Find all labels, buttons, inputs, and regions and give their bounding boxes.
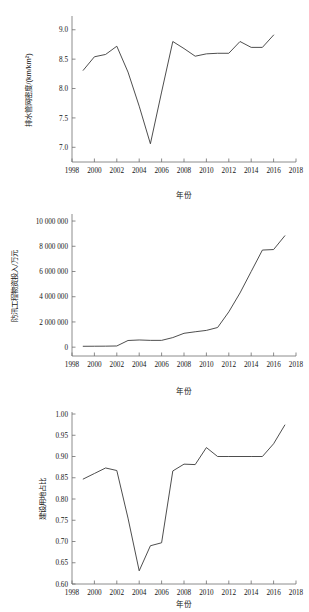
- x-tick-label: 2018: [289, 361, 304, 369]
- chart-2-plot-area: 02 000 0004 000 0006 000 0008 000 00010 …: [10, 214, 304, 396]
- data-series-line: [83, 425, 285, 571]
- x-tick-label: 2008: [177, 361, 192, 369]
- y-tick-label: 8.5: [59, 56, 68, 64]
- x-tick-label: 2000: [87, 589, 102, 597]
- x-tick-label: 2012: [222, 361, 237, 369]
- x-tick-label: 2004: [132, 589, 147, 597]
- y-tick-label: 9.0: [59, 26, 68, 34]
- x-tick-label: 1998: [65, 589, 80, 597]
- x-tick-label: 2012: [222, 589, 237, 597]
- x-tick-label: 2000: [87, 167, 102, 175]
- y-tick-label: 1.00: [55, 411, 68, 419]
- x-tick-label: 2000: [87, 361, 102, 369]
- data-series-line: [83, 35, 273, 144]
- y-tick-label: 7.0: [59, 144, 68, 152]
- y-tick-label: 0.60: [55, 581, 68, 589]
- x-axis-title: 年份: [176, 599, 192, 609]
- x-tick-label: 2016: [266, 361, 281, 369]
- chart-construction-land-ratio: 0.600.650.700.750.800.850.900.951.001998…: [0, 400, 309, 612]
- data-series-line: [83, 236, 285, 346]
- y-tick-label: 4 000 000: [39, 293, 68, 301]
- x-tick-label: 2014: [244, 361, 259, 369]
- y-tick-label: 0.65: [55, 559, 68, 567]
- x-tick-label: 2004: [132, 167, 147, 175]
- x-tick-label: 1998: [65, 167, 80, 175]
- x-tick-label: 2018: [289, 167, 304, 175]
- chart-1-canvas: 7.07.58.08.59.01998200020022004200620082…: [0, 0, 309, 204]
- y-tick-label: 0.85: [55, 474, 68, 482]
- x-tick-label: 2014: [244, 589, 259, 597]
- x-tick-label: 2006: [154, 361, 169, 369]
- y-axis-title: 排水管网密度/(km/km²): [24, 53, 33, 126]
- x-axis-title: 年份: [176, 386, 192, 396]
- y-tick-label: 0: [64, 344, 68, 352]
- figure-page: 7.07.58.08.59.01998200020022004200620082…: [0, 0, 309, 612]
- x-tick-label: 2014: [244, 167, 259, 175]
- chart-2-canvas: 02 000 0004 000 0006 000 0008 000 00010 …: [0, 204, 309, 400]
- x-tick-label: 2008: [177, 167, 192, 175]
- chart-1-plot-area: 7.07.58.08.59.01998200020022004200620082…: [24, 16, 304, 200]
- x-tick-label: 2016: [266, 167, 281, 175]
- chart-flood-control-investment: 02 000 0004 000 0006 000 0008 000 00010 …: [0, 204, 309, 400]
- x-tick-label: 2002: [110, 589, 125, 597]
- y-tick-label: 0.90: [55, 453, 68, 461]
- y-tick-label: 8 000 000: [39, 243, 68, 251]
- y-tick-label: 8.0: [59, 85, 68, 93]
- x-tick-label: 2010: [199, 361, 214, 369]
- chart-drainage-pipe-density: 7.07.58.08.59.01998200020022004200620082…: [0, 0, 309, 204]
- x-tick-label: 2006: [154, 167, 169, 175]
- y-tick-label: 10 000 000: [36, 218, 69, 226]
- chart-3-plot-area: 0.600.650.700.750.800.850.900.951.001998…: [38, 411, 304, 609]
- y-tick-label: 0.95: [55, 432, 68, 440]
- x-tick-label: 2010: [199, 589, 214, 597]
- y-tick-label: 0.75: [55, 517, 68, 525]
- x-axis-title: 年份: [176, 190, 192, 200]
- x-tick-label: 2008: [177, 589, 192, 597]
- x-tick-label: 2004: [132, 361, 147, 369]
- chart-3-canvas: 0.600.650.700.750.800.850.900.951.001998…: [0, 400, 309, 612]
- y-tick-label: 0.70: [55, 538, 68, 546]
- x-tick-label: 2006: [154, 589, 169, 597]
- x-tick-label: 2016: [266, 589, 281, 597]
- y-axis-title: 防汛工程物资投入/万元: [10, 249, 19, 322]
- x-tick-label: 2002: [110, 167, 125, 175]
- x-tick-label: 2010: [199, 167, 214, 175]
- y-tick-label: 6 000 000: [39, 268, 68, 276]
- x-tick-label: 2002: [110, 361, 125, 369]
- y-axis-title: 建设用地占比: [38, 478, 47, 520]
- x-tick-label: 2018: [289, 589, 304, 597]
- x-tick-label: 2012: [222, 167, 237, 175]
- y-tick-label: 7.5: [59, 115, 68, 123]
- x-tick-label: 1998: [65, 361, 80, 369]
- y-tick-label: 0.80: [55, 496, 68, 504]
- y-tick-label: 2 000 000: [39, 319, 68, 327]
